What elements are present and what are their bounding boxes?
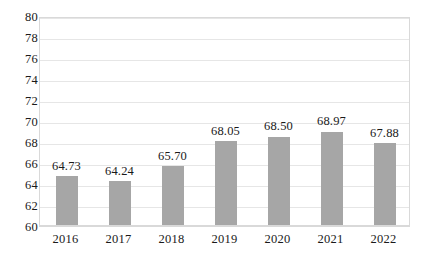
bar-value-label: 64.73: [52, 160, 81, 173]
bar[interactable]: [109, 181, 131, 226]
bar-value-label: 64.24: [105, 165, 134, 178]
x-axis-tick-label: 2021: [318, 233, 344, 246]
x-axis-baseline: [40, 225, 409, 226]
bar[interactable]: [56, 176, 78, 226]
y-axis-tick-label: 78: [4, 32, 38, 45]
x-axis-tick-label: 2022: [371, 233, 397, 246]
bar[interactable]: [162, 166, 184, 226]
bar[interactable]: [374, 143, 396, 226]
x-axis-tick-label: 2018: [159, 233, 185, 246]
x-axis-tick-label: 2019: [212, 233, 238, 246]
bar-value-label: 67.88: [370, 127, 399, 140]
y-axis-tick-label: 80: [4, 11, 38, 24]
bar[interactable]: [215, 141, 237, 226]
y-axis-tick-label: 76: [4, 53, 38, 66]
bar-value-label: 68.05: [211, 125, 240, 138]
bar-value-label: 68.97: [317, 115, 346, 128]
bar-slot: 65.70: [146, 18, 199, 226]
bar-slot: 68.05: [199, 18, 252, 226]
bar-slot: 64.73: [40, 18, 93, 226]
bar-chart: 8078767472706866646260 64.7364.2465.7068…: [0, 0, 423, 264]
bar-slot: 67.88: [358, 18, 411, 226]
y-axis-tick-label: 62: [4, 200, 38, 213]
bar-slot: 64.24: [93, 18, 146, 226]
x-axis-tick-label: 2020: [265, 233, 291, 246]
y-axis-tick-label: 64: [4, 179, 38, 192]
bar[interactable]: [321, 132, 343, 226]
bar[interactable]: [268, 137, 290, 226]
y-axis-tick-label: 72: [4, 95, 38, 108]
bar-slot: 68.97: [305, 18, 358, 226]
y-axis-tick-label: 70: [4, 116, 38, 129]
bar-value-label: 65.70: [158, 150, 187, 163]
plot-area: 64.7364.2465.7068.0568.5068.9767.88: [39, 17, 410, 227]
x-axis-tick-label: 2017: [106, 233, 132, 246]
y-axis-tick-label: 74: [4, 74, 38, 87]
y-axis-tick-label: 60: [4, 221, 38, 234]
bar-value-label: 68.50: [264, 120, 293, 133]
y-axis-tick-label: 66: [4, 158, 38, 171]
y-axis-tick-label: 68: [4, 137, 38, 150]
bar-slot: 68.50: [252, 18, 305, 226]
x-axis-tick-label: 2016: [53, 233, 79, 246]
